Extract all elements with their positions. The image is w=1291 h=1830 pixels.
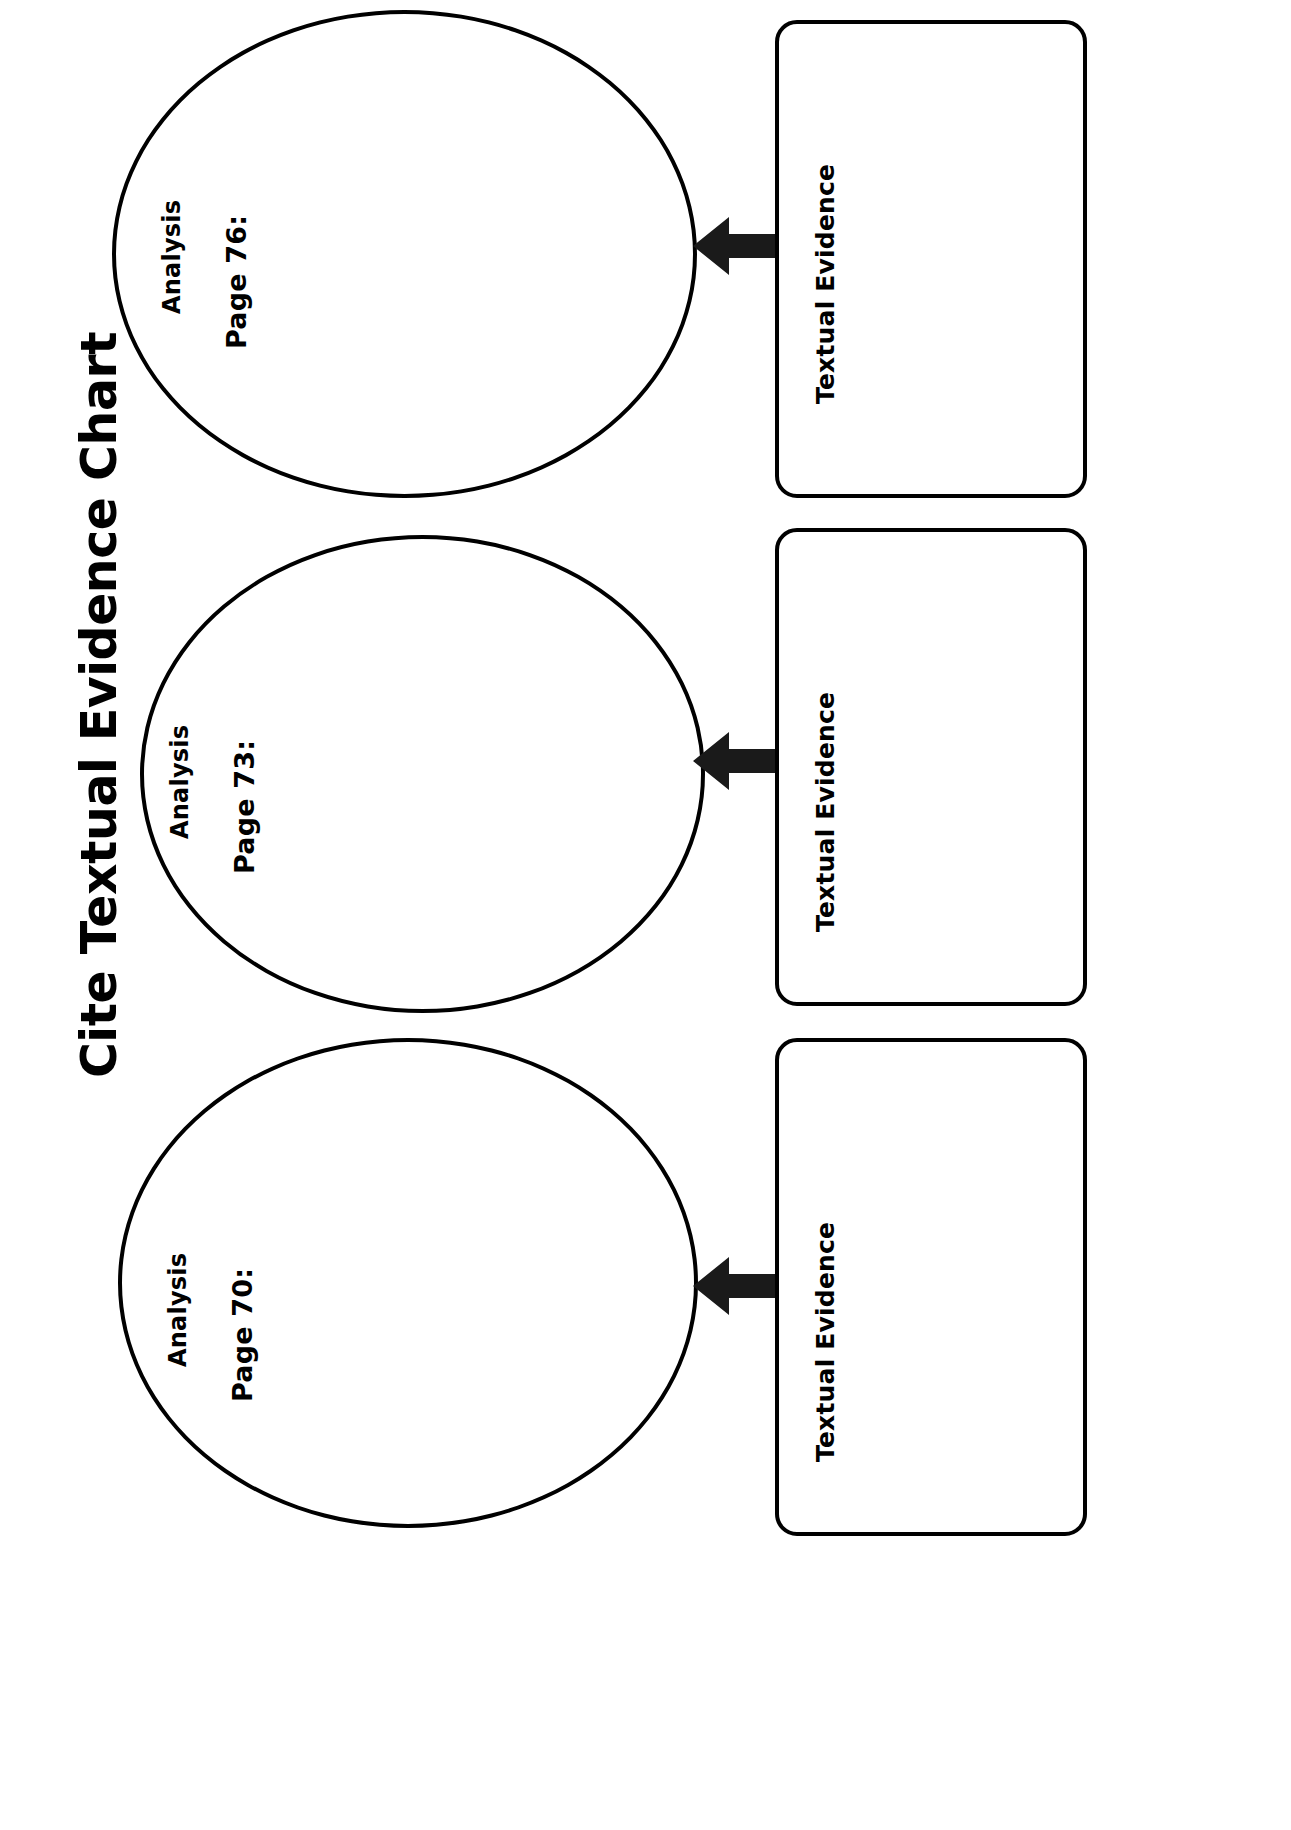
textual-evidence-box[interactable]: Textual Evidence — [775, 20, 1087, 498]
textual-evidence-box[interactable]: Textual Evidence — [775, 1038, 1087, 1536]
arrow-left-icon — [693, 730, 783, 792]
textual-evidence-box[interactable]: Textual Evidence — [775, 528, 1087, 1006]
analysis-ellipse[interactable]: Analysis Page 73: — [140, 535, 705, 1013]
analysis-page-label: Page 73: — [229, 740, 260, 874]
analysis-heading: Analysis — [164, 1253, 192, 1367]
arrow-left-icon — [693, 215, 783, 277]
textual-evidence-label: Textual Evidence — [811, 1222, 840, 1462]
worksheet-page: Cite Textual Evidence Chart Analysis Pag… — [0, 0, 1291, 1830]
evidence-group-page-70: Analysis Page 70: Textual Evidence — [0, 1010, 1291, 1830]
analysis-heading: Analysis — [166, 725, 194, 839]
arrow-left-icon — [693, 1255, 783, 1317]
evidence-group-page-76: Analysis Page 76: Textual Evidence — [0, 0, 1291, 520]
evidence-group-page-73: Analysis Page 73: Textual Evidence — [0, 505, 1291, 1025]
analysis-ellipse[interactable]: Analysis Page 70: — [118, 1038, 698, 1528]
analysis-ellipse[interactable]: Analysis Page 76: — [112, 10, 697, 498]
analysis-page-label: Page 76: — [221, 215, 252, 349]
textual-evidence-label: Textual Evidence — [811, 164, 840, 404]
textual-evidence-label: Textual Evidence — [811, 692, 840, 932]
analysis-page-label: Page 70: — [227, 1268, 258, 1402]
analysis-heading: Analysis — [158, 200, 186, 314]
